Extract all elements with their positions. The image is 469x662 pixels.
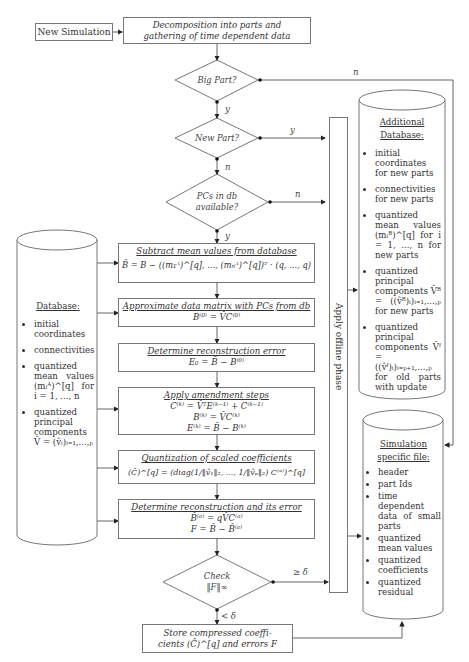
simulation-file-content: Simulation specific file: header part Id… [366, 438, 441, 599]
check-ge-label: ≥ δ [293, 567, 308, 577]
offline-phase-box: Apply offline phase [329, 117, 348, 593]
sim-file-item: quantized mean values [378, 533, 441, 553]
additional-db-title-1: Additional [363, 116, 441, 129]
sim-file-title-1: Simulation [366, 438, 441, 451]
decomposition-line2: gathering of time dependent data [124, 31, 310, 42]
pcs-yes-label: y [225, 231, 230, 241]
store-box: Store compressed coeffi- cients (Ĉ)^[q] … [142, 624, 293, 653]
new-simulation-label: New Simulation [37, 27, 110, 37]
sim-file-item: header [378, 467, 441, 477]
additional-db-title-2: Database: [363, 129, 441, 142]
step-formula: (Ĉ)^[q] = (diag(1/‖v̂₁‖₂, ..., 1/‖v̂ₚ‖₂)… [119, 467, 314, 478]
step-title: Apply amendment steps [119, 390, 314, 401]
database-content: Database: initial coordinates connectivi… [22, 300, 94, 453]
offline-phase-label: Apply offline phase [333, 303, 344, 390]
database-title: Database: [22, 300, 94, 313]
sim-file-title-2: specific file: [366, 451, 441, 464]
sim-file-item: part Ids [378, 479, 441, 489]
additional-db-item: quantized principal components V̂ᴮ = ((v… [375, 266, 441, 316]
database-item: initial coordinates [34, 319, 94, 339]
sim-file-item: quantized residual [378, 577, 441, 597]
step-formula: B⁽ᵏ⁾ = V̂C⁽ᵏ⁾ [119, 412, 314, 423]
step-formula: B̂⁽ᵃ⁾ = qV̂C⁽ᵃ⁾ [119, 513, 314, 524]
new-part-label: New Part? [185, 133, 249, 144]
step-title: Quantization of scaled coefficients [119, 453, 314, 464]
store-line2: cients (Ĉ)^[q] and errors F [143, 639, 292, 650]
additional-db-item: quantized principal components V̂ᶠ = ((v… [375, 322, 441, 392]
step-formula: E₀ = B̃ − B⁽⁰⁾ [119, 357, 314, 368]
check-lt-label: < δ [221, 611, 236, 621]
check-label: Check ‖F‖∞ [180, 571, 254, 593]
step-reconstruction-error: Determine reconstruction error E₀ = B̃ −… [118, 343, 315, 372]
step-reconstruction: Determine reconstruction and its error B… [118, 499, 315, 539]
database-item: quantized mean values (mᵢᴬ)^[q] for i = … [34, 361, 94, 401]
step-formula: B̃ = B − ((m₁ᴬ)^[q], ..., (mₙᴬ)^[q])ᵀ · … [119, 260, 314, 271]
step-formula: F = B̃ − B̂⁽ᵃ⁾ [119, 524, 314, 535]
decomposition-box: Decomposition into parts and gathering o… [123, 17, 311, 44]
additional-db-item: initial coordinates for new parts [375, 148, 441, 178]
sim-file-item: quantized coefficients [378, 555, 441, 575]
big-part-label: Big Part? [185, 75, 249, 86]
sim-file-item: time dependent data of small parts [378, 491, 441, 531]
step-quantization: Quantization of scaled coefficients (Ĉ)^… [118, 450, 315, 484]
big-part-no-label: n [353, 67, 358, 77]
check-line2: ‖F‖∞ [180, 582, 254, 593]
additional-database-content: Additional Database: initial coordinates… [363, 116, 441, 398]
step-amendment: Apply amendment steps C⁽ᵏ⁾ = V̂ᵀE⁽ᵏ⁻¹⁾ +… [118, 387, 315, 435]
step-title: Determine reconstruction and its error [119, 502, 314, 513]
pcs-no-label: n [295, 189, 300, 199]
step-formula: B⁽⁰⁾ = V̂C⁽⁰⁾ [119, 312, 314, 323]
step-subtract-mean: Subtract mean values from database B̃ = … [118, 243, 315, 283]
check-line1: Check [180, 571, 254, 582]
database-item: connectivities [34, 345, 94, 355]
step-title: Determine reconstruction error [119, 346, 314, 357]
decomposition-line1: Decomposition into parts and [124, 20, 310, 31]
pcs-line1: PCs in db [180, 191, 254, 202]
pcs-line2: available? [180, 202, 254, 213]
pcs-available-label: PCs in db available? [180, 191, 254, 213]
big-part-yes-label: y [225, 104, 230, 114]
step-approximate: Approximate data matrix with PCs from db… [118, 298, 315, 327]
new-part-no-label: n [225, 162, 230, 172]
database-item: quantized principal components V̂ = (v̂ᵢ… [34, 407, 94, 447]
step-formula: E⁽ᵏ⁾ = B̃ − B⁽ᵏ⁾ [119, 423, 314, 434]
new-part-yes-label: y [290, 125, 295, 135]
step-formula: C⁽ᵏ⁾ = V̂ᵀE⁽ᵏ⁻¹⁾ + C⁽ᵏ⁻¹⁾ [119, 401, 314, 412]
store-line1: Store compressed coeffi- [143, 628, 292, 639]
additional-db-item: connectivities for new parts [375, 184, 441, 204]
step-title: Approximate data matrix with PCs from db [119, 301, 314, 312]
new-simulation-box: New Simulation [35, 23, 113, 41]
additional-db-item: quantized mean values (mᵢᴮ)^[q] for i = … [375, 210, 441, 260]
step-title: Subtract mean values from database [119, 246, 314, 257]
